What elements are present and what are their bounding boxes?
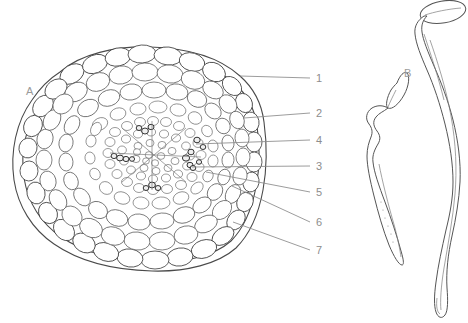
callout-label-2: 2 [316, 108, 322, 119]
callout-label-7: 7 [316, 245, 322, 256]
organ-right-stalk [415, 16, 460, 317]
scientific-figure: A B 1 2 4 3 5 6 7 [0, 0, 468, 323]
callout-label-4: 4 [316, 135, 322, 146]
panel-letter-b: B [404, 68, 411, 79]
callout-label-3: 3 [316, 161, 322, 172]
callout-label-5: 5 [316, 187, 322, 198]
leader-line-1 [240, 76, 310, 78]
organ-right-group [415, 0, 468, 317]
leader-line-3 [192, 166, 310, 167]
organ-right-blade [418, 0, 467, 27]
panel-letter-a: A [26, 86, 33, 97]
organ-left-group [367, 72, 409, 265]
callout-label-6: 6 [316, 217, 322, 228]
callout-label-1: 1 [316, 73, 322, 84]
leader-line-7 [233, 222, 310, 250]
figure-illustration [0, 0, 468, 323]
